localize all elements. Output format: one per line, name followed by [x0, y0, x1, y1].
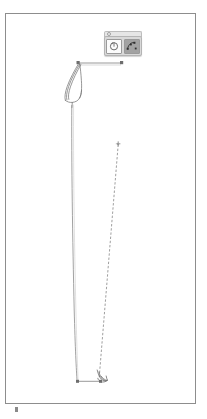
sheet-corner-tick	[15, 407, 18, 412]
floating-tool-palette[interactable]	[104, 36, 142, 56]
circle-rotate-icon	[108, 40, 120, 52]
rotate-tool-button[interactable]	[106, 39, 122, 54]
drawing-sheet[interactable]	[5, 13, 196, 404]
node-points-icon	[126, 40, 138, 52]
node-edit-tool-button[interactable]	[124, 39, 140, 54]
application-root	[0, 0, 207, 419]
